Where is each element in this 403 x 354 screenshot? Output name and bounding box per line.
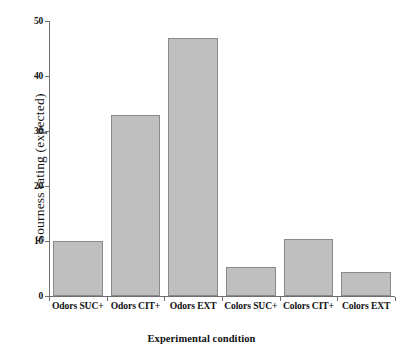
bar bbox=[53, 241, 103, 296]
y-axis-tick-label-text: 40 bbox=[34, 71, 43, 81]
x-axis-tick-label: Odors CIT+ bbox=[107, 300, 165, 311]
y-axis-tick-label: 30 bbox=[49, 131, 50, 132]
y-axis-tick-label: 40 bbox=[49, 76, 50, 77]
x-axis-tick-label: Colors SUC+ bbox=[222, 300, 280, 311]
x-axis-tick-label: Colors CIT+ bbox=[280, 300, 338, 311]
y-axis-tick-label-text: 20 bbox=[34, 181, 43, 191]
x-axis-title: Experimental condition bbox=[0, 333, 403, 344]
y-axis-line bbox=[49, 21, 50, 296]
x-axis-tick-label: Colors EXT bbox=[337, 300, 395, 311]
y-axis-tick-label-text: 50 bbox=[34, 16, 43, 26]
x-axis-tick-label: Odors EXT bbox=[164, 300, 222, 311]
y-axis-tick-label-text: 30 bbox=[34, 126, 43, 136]
y-axis-tick-label: 50 bbox=[49, 21, 50, 22]
bar bbox=[341, 272, 391, 296]
y-axis-tick-label-text: 10 bbox=[34, 236, 43, 246]
x-axis-tick bbox=[395, 297, 396, 301]
y-axis-tick-label: 20 bbox=[49, 186, 50, 187]
bar bbox=[226, 267, 276, 296]
bar-chart-figure: Sourness rating (expected) 01020304050 O… bbox=[0, 0, 403, 354]
bar bbox=[168, 38, 218, 297]
y-axis-tick-label: 10 bbox=[49, 241, 50, 242]
bar bbox=[284, 239, 334, 296]
bar bbox=[111, 115, 161, 297]
plot-area: 01020304050 bbox=[49, 21, 395, 296]
y-axis-tick-label-text: 0 bbox=[38, 291, 43, 301]
x-axis-tick-label: Odors SUC+ bbox=[49, 300, 107, 311]
